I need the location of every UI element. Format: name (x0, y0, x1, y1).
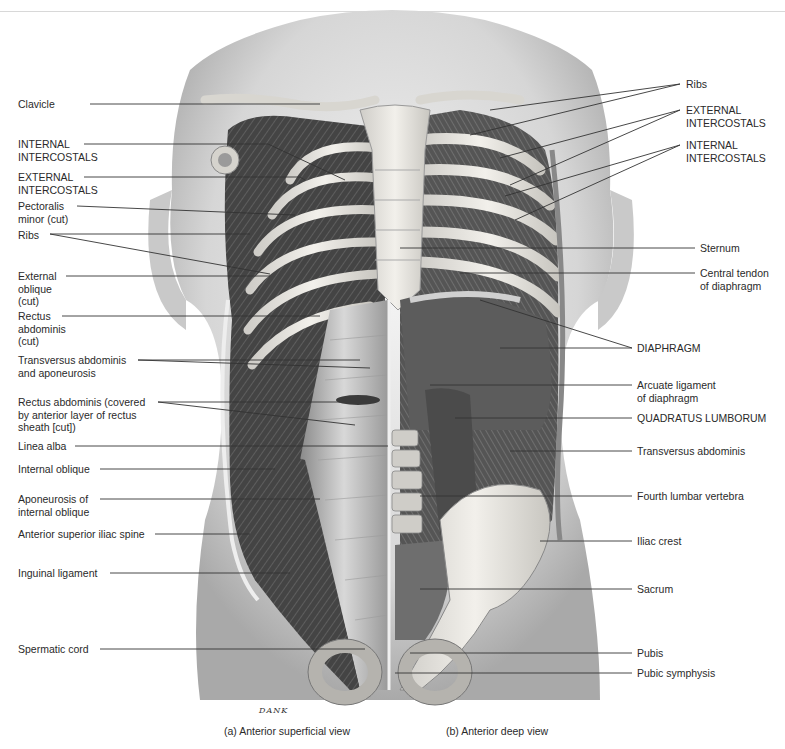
caption-a: (a) Anterior superficial view (224, 725, 350, 737)
label-spermatic-cord: Spermatic cord (18, 643, 89, 656)
label-ribs-right: Ribs (686, 78, 707, 91)
label-internal-intercostals-right: INTERNAL INTERCOSTALS (686, 139, 766, 164)
label-iliac-crest: Iliac crest (637, 535, 681, 548)
label-clavicle: Clavicle (18, 98, 55, 111)
label-external-intercostals-left: EXTERNAL INTERCOSTALS (18, 171, 98, 196)
label-central-tendon: Central tendon of diaphragm (700, 267, 769, 292)
label-external-oblique: External oblique (cut) (18, 270, 57, 308)
label-pectoralis-minor: Pectoralis minor (cut) (18, 200, 68, 225)
label-pubic-symphysis: Pubic symphysis (637, 667, 715, 680)
label-rectus-abdominis-covered: Rectus abdominis (covered by anterior la… (18, 396, 145, 434)
label-pubis: Pubis (637, 647, 663, 660)
artist-signature: DANK (259, 706, 288, 715)
diaphragm (400, 293, 551, 430)
lumbar-spine (392, 430, 422, 533)
caption-b: (b) Anterior deep view (446, 725, 548, 737)
label-internal-intercostals-left: INTERNAL INTERCOSTALS (18, 138, 98, 163)
label-inguinal-ligament: Inguinal ligament (18, 567, 97, 580)
label-fourth-lumbar: Fourth lumbar vertebra (637, 490, 744, 503)
label-aponeurosis-internal-oblique: Aponeurosis of internal oblique (18, 493, 89, 518)
label-quadratus-lumborum: QUADRATUS LUMBORUM (637, 412, 766, 425)
label-transversus-aponeurosis: Transversus abdominis and aponeurosis (18, 354, 126, 379)
label-arcuate-ligament: Arcuate ligament of diaphragm (637, 379, 716, 404)
label-sternum: Sternum (700, 242, 740, 255)
label-rectus-abdominis-cut: Rectus abdominis (cut) (18, 310, 66, 348)
label-diaphragm: DIAPHRAGM (637, 342, 701, 355)
label-sacrum: Sacrum (637, 583, 673, 596)
label-ribs-left: Ribs (18, 229, 39, 242)
label-asis: Anterior superior iliac spine (18, 528, 145, 541)
label-external-intercostals-right: EXTERNAL INTERCOSTALS (686, 104, 766, 129)
label-internal-oblique: Internal oblique (18, 463, 90, 476)
label-linea-alba: Linea alba (18, 440, 66, 453)
label-transversus-abdominis: Transversus abdominis (637, 445, 745, 458)
